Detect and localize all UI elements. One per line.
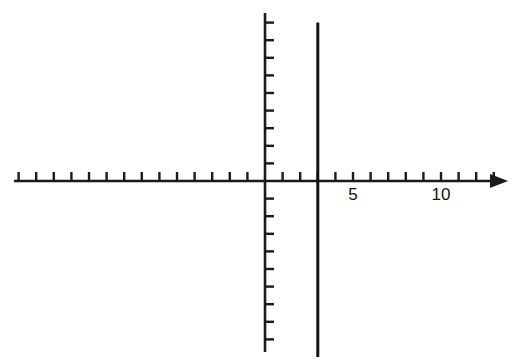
x-tick-label: 10	[432, 185, 451, 204]
graph-figure: 510	[0, 0, 513, 363]
x-tick-label: 5	[348, 185, 357, 204]
coordinate-plane-svg: 510	[0, 0, 513, 363]
